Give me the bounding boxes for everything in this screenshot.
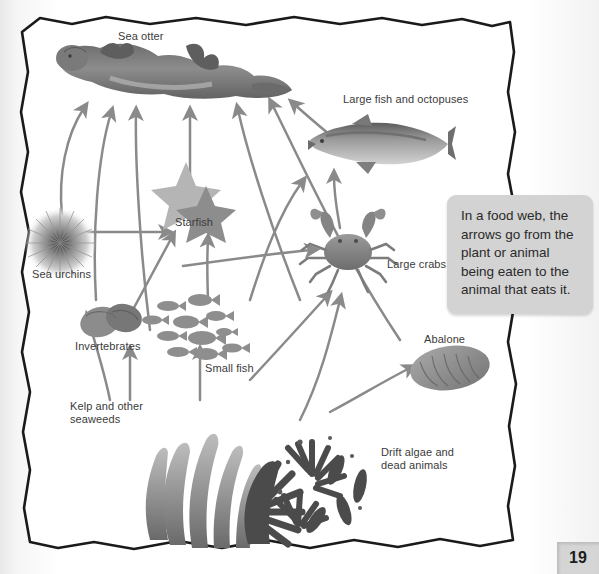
food-web-callout: In a food web, the arrows go from the pl…	[447, 195, 593, 314]
label-abalone: Abalone	[424, 333, 465, 346]
label-kelp: Kelp and other seaweeds	[70, 400, 143, 426]
label-drift-algae: Drift algae and dead animals	[381, 446, 454, 472]
label-sea-otter: Sea otter	[118, 30, 164, 43]
label-small-fish: Small fish	[205, 362, 254, 375]
page-number: 19	[557, 542, 599, 574]
page-number-value: 19	[557, 542, 599, 574]
food-web-page: Sea otter Large fish and octopuses Starf…	[0, 0, 599, 574]
label-large-crabs: Large crabs	[387, 258, 446, 271]
callout-text: In a food web, the arrows go from the pl…	[461, 208, 574, 297]
label-invertebrates: Invertebrates	[75, 340, 141, 353]
label-large-fish: Large fish and octopuses	[343, 93, 468, 106]
label-starfish: Starfish	[175, 216, 213, 229]
label-sea-urchins: Sea urchins	[32, 268, 91, 281]
